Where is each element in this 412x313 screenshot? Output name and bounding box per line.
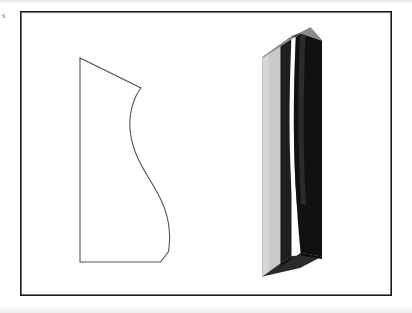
figure-illustration [0,0,412,313]
figure-page: s [0,0,412,313]
figure-border [21,12,391,295]
solid-inner-dark-face [281,37,292,264]
solid-left-face-shading [263,53,270,277]
scan-edge-bottom [0,305,412,313]
solid-right-face [294,33,322,257]
